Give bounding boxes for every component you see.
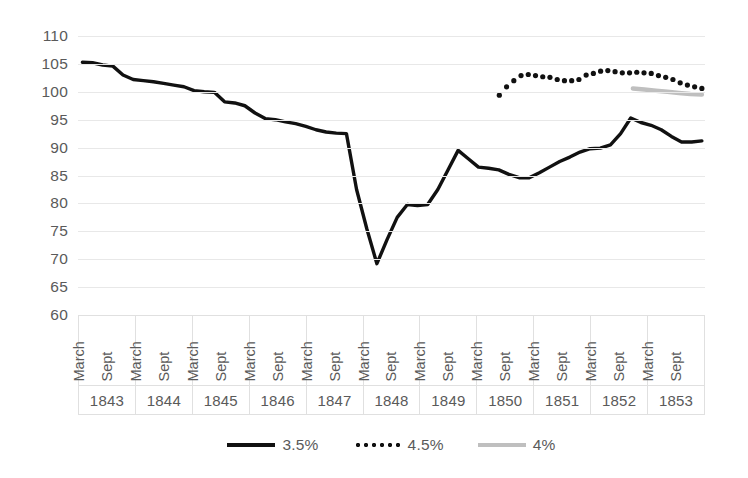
legend-entry[interactable]: 4.5% (353, 437, 444, 453)
series-point (634, 70, 639, 75)
month-axis-label: Sept (270, 351, 285, 381)
series-point (656, 73, 661, 78)
gridline (78, 148, 705, 149)
series-point (511, 78, 516, 83)
month-axis-label: March (470, 341, 485, 381)
legend-entry[interactable]: 3.5% (227, 437, 318, 453)
month-axis-label: March (356, 341, 371, 381)
legend-swatch (227, 443, 275, 447)
year-axis-label: 1850 (488, 393, 522, 408)
month-axis-label: March (185, 341, 200, 381)
month-axis-label: March (242, 341, 257, 381)
chart-legend: 3.5%4.5%4% (78, 430, 705, 460)
month-axis-label: Sept (213, 351, 228, 381)
month-axis-label: Sept (668, 351, 683, 381)
gridline (78, 64, 705, 65)
gridline (78, 176, 705, 177)
month-axis-label: March (71, 341, 86, 381)
series-point (670, 77, 675, 82)
year-row: 1850 (477, 386, 533, 414)
months-row: MarchSept (648, 316, 704, 386)
months-row: MarchSept (250, 316, 306, 386)
year-row: 1847 (307, 386, 363, 414)
y-axis-tick-label: 65 (50, 279, 68, 295)
year-row: 1852 (591, 386, 647, 414)
gridline (78, 92, 705, 93)
year-axis-label: 1845 (204, 393, 238, 408)
year-row: 1853 (648, 386, 704, 414)
y-axis: 1101051009590858075706560 (0, 0, 78, 478)
legend-entry[interactable]: 4% (478, 437, 556, 453)
gridline (78, 203, 705, 204)
month-axis-label: March (584, 341, 599, 381)
gridline (78, 36, 705, 37)
series-point (555, 77, 560, 82)
month-axis-label: March (413, 341, 428, 381)
series-point (569, 78, 574, 83)
year-axis-label: 1853 (659, 393, 693, 408)
month-axis-label: March (299, 341, 314, 381)
series-point (692, 84, 697, 89)
series-point (533, 73, 538, 78)
year-row: 1845 (193, 386, 249, 414)
month-axis-label: Sept (498, 351, 513, 381)
series-point (497, 93, 502, 98)
series-point (591, 71, 596, 76)
y-axis-tick-label: 85 (50, 168, 68, 184)
series-point (685, 83, 690, 88)
legend-label: 4.5% (408, 437, 444, 453)
month-axis-label: Sept (612, 351, 627, 381)
months-row: MarchSept (136, 316, 192, 386)
year-row: 1844 (136, 386, 192, 414)
series-point (562, 78, 567, 83)
series-point (504, 84, 509, 89)
y-axis-tick-label: 105 (42, 56, 68, 72)
series-point (598, 69, 603, 74)
series-point (518, 73, 523, 78)
series-point (605, 68, 610, 73)
series-point (612, 69, 617, 74)
series-point (547, 75, 552, 80)
y-axis-tick-label: 80 (50, 195, 68, 211)
plot-area (78, 36, 705, 315)
series-point (540, 74, 545, 79)
month-axis-label: March (641, 341, 656, 381)
month-axis-label: Sept (99, 351, 114, 381)
year-row: 1848 (364, 386, 420, 414)
y-axis-tick-label: 110 (43, 28, 68, 44)
series-point (620, 70, 625, 75)
legend-key-solid-gray (478, 439, 526, 451)
months-row: MarchSept (193, 316, 249, 386)
year-axis-label: 1843 (90, 393, 124, 408)
month-axis-label: Sept (555, 351, 570, 381)
months-row: MarchSept (307, 316, 363, 386)
month-axis-label: Sept (384, 351, 399, 381)
legend-label: 3.5% (282, 437, 318, 453)
month-cell: Sept (676, 316, 704, 385)
year-block: MarchSept1853 (648, 316, 704, 414)
year-axis-label: 1848 (374, 393, 408, 408)
month-axis-label: March (527, 341, 542, 381)
month-axis-label: March (128, 341, 143, 381)
series-point (641, 70, 646, 75)
y-axis-tick-label: 90 (50, 140, 68, 156)
legend-swatch (354, 443, 400, 447)
y-axis-tick-label: 100 (42, 84, 68, 100)
series-point (649, 71, 654, 76)
gridline (78, 120, 705, 121)
series-point (699, 86, 704, 91)
month-axis-label: Sept (156, 351, 171, 381)
y-axis-tick-label: 95 (50, 112, 68, 128)
year-axis-label: 1847 (317, 393, 351, 408)
year-axis-label: 1851 (545, 393, 579, 408)
series-point (627, 70, 632, 75)
gridline (78, 231, 705, 232)
y-axis-tick-label: 60 (50, 307, 68, 323)
series-point (576, 77, 581, 82)
year-row: 1843 (79, 386, 135, 414)
gridline (78, 287, 705, 288)
month-axis-label: Sept (327, 351, 342, 381)
year-row: 1851 (534, 386, 590, 414)
gridline (78, 259, 705, 260)
year-axis-label: 1852 (602, 393, 636, 408)
